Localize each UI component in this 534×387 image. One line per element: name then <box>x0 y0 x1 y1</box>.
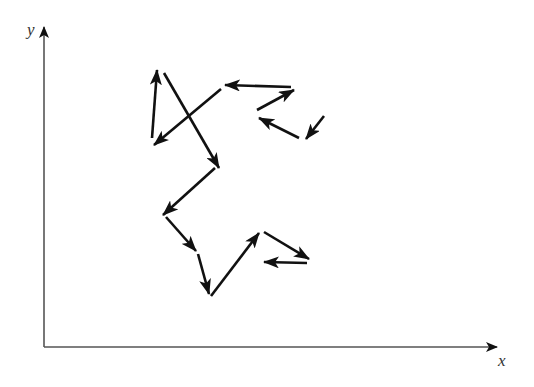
vector-arrow-7 <box>306 116 324 139</box>
vector-arrow-5 <box>257 90 294 110</box>
diagram-canvas: x y <box>0 0 534 387</box>
vector-arrow-6 <box>259 118 299 138</box>
vector-arrow-4 <box>225 85 291 87</box>
vector-arrow-13 <box>264 262 307 263</box>
vector-arrow-8 <box>163 168 215 215</box>
y-axis-label: y <box>25 20 35 39</box>
vector-arrow-3 <box>154 89 221 145</box>
vector-arrow-2 <box>164 73 219 168</box>
vector-arrows <box>152 70 324 296</box>
vector-arrow-10 <box>198 254 209 294</box>
axes: x y <box>25 20 506 370</box>
vector-arrow-1 <box>152 70 157 138</box>
vector-arrow-11 <box>211 233 259 296</box>
vector-arrow-12 <box>264 232 309 259</box>
x-axis-label: x <box>497 351 506 370</box>
vector-arrow-9 <box>166 217 196 251</box>
